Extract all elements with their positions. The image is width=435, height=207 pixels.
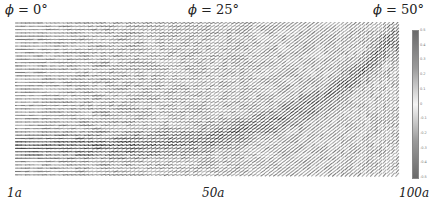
phi-50-label: ϕ = 50° xyxy=(373,2,424,17)
colorbar-tick-label: 0.3 xyxy=(420,57,426,61)
colorbar-tick-label: 0.2 xyxy=(420,72,426,76)
phi-value: = 0° xyxy=(14,2,48,17)
colorbar-tick-label: -0.3 xyxy=(420,146,427,150)
colorbar-tick-label: -0.1 xyxy=(420,116,427,120)
phi-symbol: ϕ xyxy=(5,2,14,17)
colorbar-tick-label: 0.1 xyxy=(420,87,426,91)
phi-value: = 50° xyxy=(382,2,424,17)
colorbar-tick-label: 0.4 xyxy=(420,43,426,47)
x-tick-1a: 1a xyxy=(7,186,22,200)
texture-field-plot xyxy=(15,22,401,177)
phi-value: = 25° xyxy=(197,2,239,17)
colorbar-tick-label: -0.5 xyxy=(420,175,427,179)
x-tick-100a: 100a xyxy=(399,186,429,200)
colorbar-tick-label: 0.5 xyxy=(420,28,426,32)
phi-symbol: ϕ xyxy=(188,2,197,17)
colorbar-tick-label: 0 xyxy=(420,102,422,106)
colorbar-ticks: 0.50.40.30.20.10-0.1-0.2-0.3-0.4-0.5 xyxy=(420,30,435,177)
phi-25-label: ϕ = 25° xyxy=(188,2,239,17)
phi-0-label: ϕ = 0° xyxy=(5,2,48,17)
colorbar-tick-label: -0.4 xyxy=(420,160,427,164)
field-canvas xyxy=(15,22,401,177)
phi-symbol: ϕ xyxy=(373,2,382,17)
x-tick-50a: 50a xyxy=(202,186,224,200)
colorbar-tick-label: -0.2 xyxy=(420,131,427,135)
colorbar xyxy=(412,30,419,179)
